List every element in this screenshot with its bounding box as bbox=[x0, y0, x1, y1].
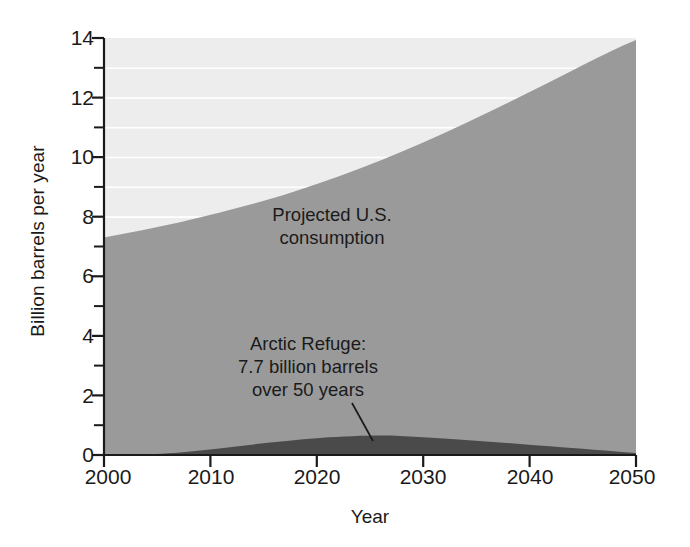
x-tick-label-2040: 2040 bbox=[480, 466, 580, 487]
x-tick-label-2030: 2030 bbox=[373, 466, 473, 487]
arctic-refuge-label: Arctic Refuge: 7.7 billion barrels over … bbox=[208, 332, 408, 401]
x-axis-title: Year bbox=[104, 506, 636, 528]
y-tick-label-8: 8 bbox=[48, 206, 94, 227]
y-tick-label-4: 4 bbox=[48, 325, 94, 346]
x-axis-tick-labels: 2000 2010 2020 2030 2040 2050 bbox=[0, 466, 690, 494]
y-axis-minor-ticks bbox=[94, 68, 104, 425]
y-tick-label-10: 10 bbox=[48, 146, 94, 167]
x-tick-label-2050: 2050 bbox=[582, 466, 682, 487]
y-tick-label-6: 6 bbox=[48, 265, 94, 286]
chart-figure: 14 12 10 8 6 4 2 0 2000 2010 2020 2030 2… bbox=[0, 0, 690, 547]
y-tick-label-14: 14 bbox=[48, 27, 94, 48]
x-tick-label-2010: 2010 bbox=[161, 466, 261, 487]
y-tick-label-2: 2 bbox=[48, 385, 94, 406]
y-axis-title: Billion barrels per year bbox=[27, 71, 49, 411]
y-tick-label-0: 0 bbox=[48, 444, 94, 465]
y-tick-label-12: 12 bbox=[48, 87, 94, 108]
x-tick-label-2020: 2020 bbox=[267, 466, 367, 487]
x-tick-label-2000: 2000 bbox=[58, 466, 158, 487]
projected-consumption-label: Projected U.S. consumption bbox=[232, 203, 432, 249]
